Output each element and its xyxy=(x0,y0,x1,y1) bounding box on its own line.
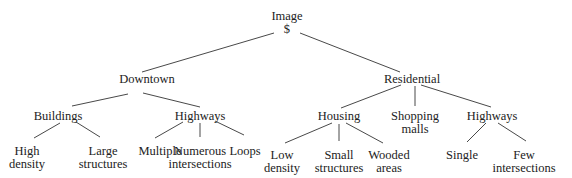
node-single: Single xyxy=(446,149,478,162)
edge-image-to-downtown xyxy=(142,33,274,72)
node-label: density xyxy=(9,158,45,171)
node-label: Residential xyxy=(384,73,440,86)
node-small-structures: Smallstructures xyxy=(315,149,364,175)
edge-residential-to-highways-residential xyxy=(421,85,491,107)
node-label: areas xyxy=(368,162,409,175)
node-label: $ xyxy=(271,23,302,36)
edge-highways-downtown-to-multiple xyxy=(155,122,183,138)
node-label: structures xyxy=(79,158,128,171)
node-image: Image$ xyxy=(271,10,302,36)
node-label: intersections xyxy=(492,162,555,175)
node-label: intersections xyxy=(168,158,231,171)
node-loops: Loops xyxy=(229,145,260,158)
node-label: Highways xyxy=(175,110,226,123)
edge-residential-to-housing xyxy=(341,85,401,108)
node-label: density xyxy=(264,162,300,175)
node-buildings: Buildings xyxy=(34,110,83,123)
node-label: Buildings xyxy=(34,110,83,123)
edge-housing-to-wooded-areas xyxy=(346,123,383,143)
node-wooded-areas: Woodedareas xyxy=(368,149,409,175)
edge-highways-residential-to-single xyxy=(467,123,486,142)
node-numerous-intersections: Numerousintersections xyxy=(168,145,231,171)
node-residential: Residential xyxy=(384,73,440,86)
node-downtown: Downtown xyxy=(119,73,175,86)
node-label: Housing xyxy=(318,110,360,123)
node-low-density: Lowdensity xyxy=(264,149,300,175)
node-label: Downtown xyxy=(119,73,175,86)
edge-buildings-to-high-density xyxy=(34,123,60,138)
node-housing: Housing xyxy=(318,110,360,123)
node-label: Single xyxy=(446,149,478,162)
edge-highways-downtown-to-loops xyxy=(215,121,244,135)
edge-downtown-to-buildings xyxy=(72,94,128,106)
edge-highways-residential-to-few-intersections xyxy=(498,123,526,141)
node-highways-residential: Highways xyxy=(467,110,518,123)
edge-image-to-residential xyxy=(300,33,400,72)
node-high-density: Highdensity xyxy=(9,145,45,171)
node-label: malls xyxy=(391,123,439,136)
node-label: Highways xyxy=(467,110,518,123)
edge-buildings-to-large-structures xyxy=(76,122,100,137)
node-shopping-malls: Shoppingmalls xyxy=(391,110,439,136)
node-label: Loops xyxy=(229,145,260,158)
node-few-intersections: Fewintersections xyxy=(492,149,555,175)
node-highways-downtown: Highways xyxy=(175,110,226,123)
node-large-structures: Largestructures xyxy=(79,145,128,171)
edge-housing-to-low-density xyxy=(285,123,332,143)
edge-downtown-to-highways-downtown xyxy=(143,93,200,107)
node-label: structures xyxy=(315,162,364,175)
